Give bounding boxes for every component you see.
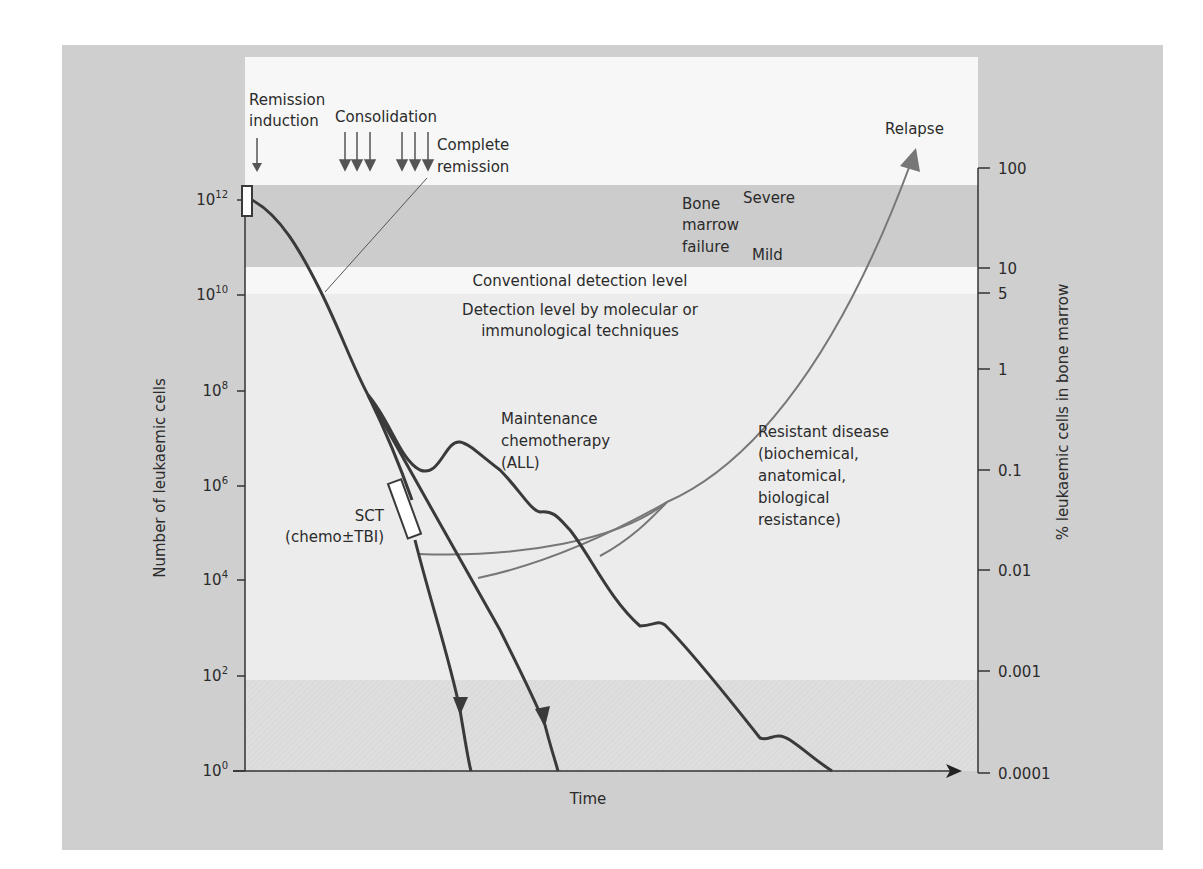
svg-text:10: 10 bbox=[998, 260, 1017, 278]
svg-text:Detection level by molecular o: Detection level by molecular or bbox=[462, 301, 699, 319]
svg-text:(biochemical,: (biochemical, bbox=[758, 445, 859, 463]
svg-text:0.0001: 0.0001 bbox=[998, 765, 1051, 783]
svg-text:anatomical,: anatomical, bbox=[758, 467, 846, 485]
remission-induction-marker bbox=[242, 186, 252, 216]
svg-text:Maintenance: Maintenance bbox=[501, 410, 598, 428]
below-detection-band bbox=[245, 680, 978, 771]
svg-text:Complete: Complete bbox=[437, 136, 509, 154]
svg-text:1: 1 bbox=[998, 361, 1008, 379]
svg-text:Remission: Remission bbox=[249, 91, 325, 109]
consolidation-label: Consolidation bbox=[335, 108, 437, 126]
conventional-detection-label: Conventional detection level bbox=[473, 272, 688, 290]
svg-text:Bone: Bone bbox=[682, 195, 720, 213]
leukaemia-cell-kinetics-diagram: 1012 1010 108 106 104 102 100 Number of … bbox=[0, 0, 1203, 869]
svg-text:0.01: 0.01 bbox=[998, 562, 1031, 580]
svg-text:immunological techniques: immunological techniques bbox=[481, 322, 679, 340]
x-axis-label: Time bbox=[569, 790, 607, 808]
svg-text:remission: remission bbox=[437, 158, 509, 176]
svg-text:marrow: marrow bbox=[682, 216, 739, 234]
svg-text:0.001: 0.001 bbox=[998, 663, 1041, 681]
svg-text:100: 100 bbox=[998, 160, 1027, 178]
svg-text:(ALL): (ALL) bbox=[501, 454, 540, 472]
svg-text:chemotherapy: chemotherapy bbox=[501, 432, 610, 450]
y-axis-right-label: % leukaemic cells in bone marrow bbox=[1054, 284, 1072, 541]
molecular-detection-band bbox=[245, 294, 978, 680]
bone-marrow-failure-band bbox=[245, 185, 978, 267]
severe-label: Severe bbox=[743, 189, 795, 207]
svg-text:SCT: SCT bbox=[355, 507, 385, 525]
y-axis-left-label: Number of leukaemic cells bbox=[151, 378, 169, 578]
svg-text:0.1: 0.1 bbox=[998, 462, 1022, 480]
mild-label: Mild bbox=[752, 246, 783, 264]
svg-text:(chemo±TBI): (chemo±TBI) bbox=[285, 528, 384, 546]
svg-text:induction: induction bbox=[249, 112, 319, 130]
svg-text:resistance): resistance) bbox=[758, 511, 841, 529]
svg-text:5: 5 bbox=[998, 285, 1008, 303]
svg-text:failure: failure bbox=[682, 238, 729, 256]
svg-text:Resistant disease: Resistant disease bbox=[758, 423, 889, 441]
relapse-label: Relapse bbox=[885, 120, 944, 138]
svg-text:biological: biological bbox=[758, 489, 830, 507]
